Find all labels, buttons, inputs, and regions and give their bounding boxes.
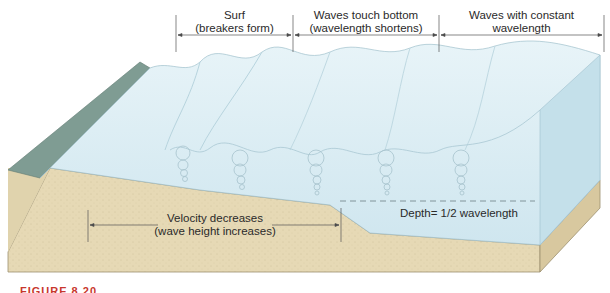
velocity-label: Velocity decreases (wave height increase… — [150, 212, 280, 238]
figure-caption: FIGURE 8.20 — [20, 284, 97, 293]
wave-diagram — [0, 0, 610, 293]
zone-label-line2: wavelength — [439, 22, 604, 35]
velocity-label-line1: Velocity decreases — [150, 212, 280, 225]
velocity-label-line2: (wave height increases) — [150, 225, 280, 238]
zone-label-line2: (wavelength shortens) — [293, 22, 439, 35]
zone-label-line2: (breakers form) — [176, 22, 293, 35]
zone-label-constant: Waves with constant wavelength — [439, 9, 604, 35]
depth-label: Depth= 1/2 wavelength — [400, 207, 540, 220]
zone-label-line1: Waves touch bottom — [293, 9, 439, 22]
zone-label-line1: Surf — [176, 9, 293, 22]
zone-label-surf: Surf (breakers form) — [176, 9, 293, 35]
zone-label-line1: Waves with constant — [439, 9, 604, 22]
zone-label-touch-bottom: Waves touch bottom (wavelength shortens) — [293, 9, 439, 35]
